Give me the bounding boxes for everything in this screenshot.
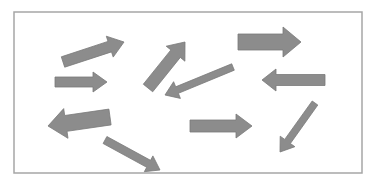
diagram-frame xyxy=(14,12,362,173)
arrows-diagram xyxy=(0,0,377,189)
